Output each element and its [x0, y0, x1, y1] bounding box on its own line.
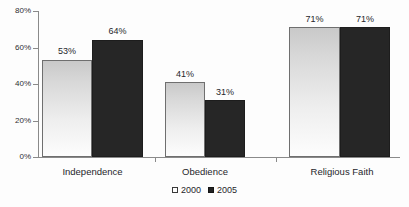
value-label-religious-faith-2000: 71%	[289, 15, 340, 24]
bar-religious-faith-2005	[340, 27, 390, 157]
scan-clipped-text-row	[0, 203, 409, 207]
x-axis-separator-tick-1	[155, 157, 156, 162]
bar-independence-2000	[42, 60, 92, 157]
y-axis-label-20: 20%	[0, 117, 31, 125]
y-axis-label-40: 40%	[0, 80, 31, 88]
x-axis-category-label-independence: Independence	[42, 166, 143, 177]
x-axis-category-label-obedience: Obedience	[165, 166, 245, 177]
bar-obedience-2005	[205, 100, 245, 157]
value-label-independence-2000: 53%	[42, 47, 92, 56]
value-label-obedience-2000: 41%	[165, 70, 205, 79]
value-label-obedience-2005: 31%	[205, 88, 245, 97]
legend-label-2005: 2005	[217, 185, 237, 195]
bar-independence-2005	[92, 40, 143, 157]
legend-swatch-2000-icon	[172, 187, 178, 193]
x-axis-separator-tick-2	[276, 157, 277, 162]
bar-religious-faith-2000	[289, 27, 340, 157]
chart-legend: 2000 2005	[0, 185, 409, 195]
y-axis-label-60: 60%	[0, 44, 31, 52]
y-axis-tick-0	[33, 157, 39, 158]
x-axis-category-label-religious-faith: Religious Faith	[282, 166, 402, 177]
scan-clipped-text-artifact	[0, 203, 409, 207]
y-axis-label-0: 0%	[0, 153, 31, 161]
legend-item-2005: 2005	[208, 185, 237, 195]
legend-label-2000: 2000	[181, 185, 201, 195]
value-label-independence-2005: 64%	[92, 27, 143, 36]
y-axis-label-80: 80%	[0, 7, 31, 15]
bar-obedience-2000	[165, 82, 205, 157]
legend-swatch-2005-icon	[208, 187, 214, 193]
value-label-religious-faith-2005: 71%	[340, 15, 390, 24]
x-axis-line	[33, 157, 400, 158]
bar-chart-figure: 80% 60% 40% 20% 0% 53% 64% 41% 31% 71% 7…	[0, 0, 409, 207]
legend-item-2000: 2000	[172, 185, 201, 195]
